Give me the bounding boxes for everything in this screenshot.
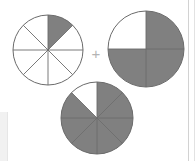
scan-edge-line-outer xyxy=(194,0,195,161)
plus-operator-icon: + xyxy=(88,46,104,62)
fraction-circle-second-addend xyxy=(106,9,186,89)
fraction-circle-first-addend xyxy=(11,13,85,87)
fraction-circle-sum-result xyxy=(59,80,135,156)
fraction-diagram-canvas: + xyxy=(0,0,195,161)
scan-edge-line xyxy=(188,0,189,161)
scan-artifact-patch-edge xyxy=(7,112,8,161)
